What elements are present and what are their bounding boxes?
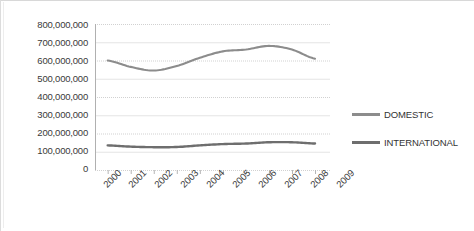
y-tick-label: 300,000,000: [2, 109, 88, 120]
x-tick-label: 2001: [126, 167, 148, 189]
y-tick-label: 100,000,000: [2, 145, 88, 156]
y-tick-label: 800,000,000: [2, 19, 88, 30]
y-tick-label: 500,000,000: [2, 73, 88, 84]
chart-legend: DOMESTIC INTERNATIONAL: [352, 100, 474, 156]
x-tick-label: 2004: [204, 167, 226, 189]
y-tick-label: 400,000,000: [2, 91, 88, 102]
plot-svg: [95, 24, 330, 176]
x-tick-label: 2007: [282, 167, 304, 189]
plot-area: [95, 24, 330, 170]
legend-item-international: INTERNATIONAL: [352, 128, 474, 156]
legend-label-domestic: DOMESTIC: [384, 109, 433, 120]
legend-item-domestic: DOMESTIC: [352, 100, 474, 128]
legend-label-international: INTERNATIONAL: [384, 137, 458, 148]
line-series-domestic: [108, 46, 315, 71]
legend-line-swatch-international: [352, 141, 380, 144]
x-tick-label: 2005: [230, 167, 252, 189]
y-tick-label: 700,000,000: [2, 37, 88, 48]
x-tick-label: 2000: [101, 167, 123, 189]
x-tick-label: 2002: [152, 167, 174, 189]
x-tick-label: 2009: [334, 167, 356, 189]
y-tick-label: 0: [2, 163, 88, 174]
chart-figure: 800,000,000 700,000,000 600,000,000 500,…: [0, 0, 474, 231]
x-tick-label: 2008: [308, 167, 330, 189]
x-axis-tick-labels: 2000 2001 2002 2003 2004 2005 2006 2007 …: [95, 170, 345, 231]
x-tick-label: 2006: [256, 167, 278, 189]
line-series-international: [108, 142, 315, 147]
x-tick-label: 2003: [178, 167, 200, 189]
gridlines: [95, 25, 330, 171]
y-axis-tick-labels: 800,000,000 700,000,000 600,000,000 500,…: [0, 0, 88, 231]
legend-line-swatch-domestic: [352, 113, 380, 116]
y-tick-label: 600,000,000: [2, 55, 88, 66]
y-tick-label: 200,000,000: [2, 127, 88, 138]
